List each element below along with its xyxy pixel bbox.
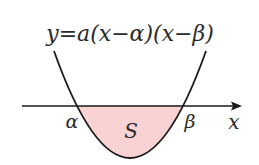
region-s-label: S xyxy=(124,119,138,143)
x-axis-label: x xyxy=(228,110,239,134)
equation-label: y=a(x−α)(x−β) xyxy=(45,21,214,46)
root-alpha-label: α xyxy=(66,110,79,132)
parabola-diagram: y=a(x−α)(x−β) α β x S xyxy=(0,0,259,165)
diagram-canvas: y=a(x−α)(x−β) α β x S xyxy=(0,0,259,165)
root-beta-label: β xyxy=(184,110,196,132)
